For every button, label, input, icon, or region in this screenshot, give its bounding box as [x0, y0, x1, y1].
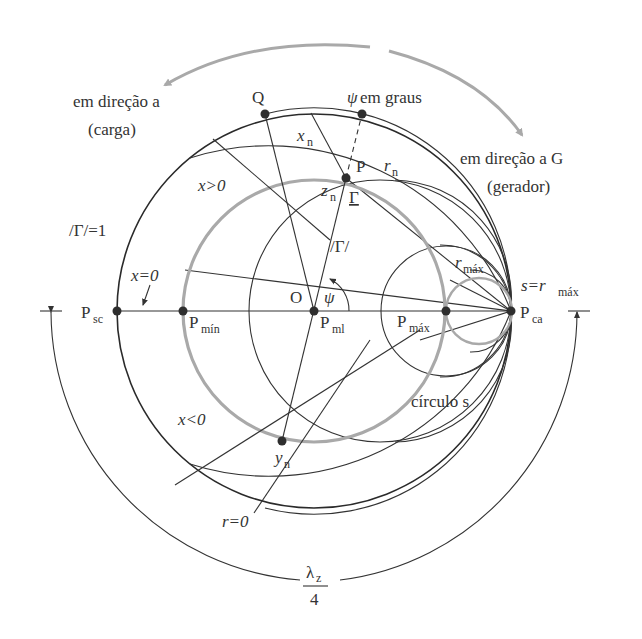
- label-Pmax-sub: máx: [409, 321, 430, 335]
- label-xn: x: [296, 126, 305, 145]
- label-psi-deg-sym: ψ: [347, 88, 358, 107]
- point-Q: [261, 110, 270, 119]
- label-rmax-sub: máx: [463, 262, 484, 276]
- toward-generator-label-2: (gerador): [487, 177, 550, 196]
- point-Pmax: [442, 307, 451, 316]
- label-Pmin: P: [189, 313, 198, 332]
- label-x-negative: x<0: [177, 410, 206, 429]
- label-Psc-sub: sc: [93, 312, 103, 326]
- label-psi: ψ: [324, 288, 335, 307]
- label-circle-s: círculo s: [411, 392, 469, 411]
- label-gamma-eq-1: /Γ/=1: [69, 221, 106, 240]
- label-x-positive: x>0: [197, 176, 226, 195]
- line-xpos: [213, 139, 330, 240]
- toward-generator-label-1: em direção a G: [460, 149, 563, 168]
- lambda-quarter-arc-left: [51, 312, 300, 580]
- toward-load-arrow: [165, 45, 370, 85]
- label-gamma-mag: /Γ/: [330, 237, 350, 256]
- label-rn-sub: n: [392, 165, 398, 179]
- label-zn-sub: n: [330, 190, 336, 204]
- label-yn-sub: n: [284, 457, 290, 471]
- label-s-eq-rmax: s=r: [521, 276, 546, 295]
- label-O: O: [290, 288, 302, 307]
- point-yn: [278, 437, 287, 446]
- label-lambda-sub: z: [316, 571, 321, 585]
- label-x-zero: x=0: [130, 266, 159, 285]
- line-lower-left: [175, 330, 420, 485]
- label-gamma: Γ: [349, 188, 359, 207]
- label-xn-sub: n: [307, 135, 313, 149]
- label-P: P: [356, 157, 365, 176]
- label-rn: r: [384, 156, 391, 175]
- label-Pml: P: [320, 313, 329, 332]
- label-s-eq-rmax-sub: máx: [558, 285, 579, 299]
- label-lambda-den: 4: [310, 590, 319, 609]
- label-r-zero: r=0: [222, 512, 249, 531]
- x0-pointer: [143, 285, 150, 305]
- point-Psc: [113, 307, 122, 316]
- point-Pml: [310, 307, 319, 316]
- point-Pca: [507, 307, 516, 316]
- label-Pca: P: [520, 303, 529, 322]
- point-Pmin: [179, 307, 188, 316]
- toward-load-label-1: em direção a: [73, 92, 160, 111]
- line-xn: [311, 113, 346, 178]
- smith-chart: em direção a (carga) em direção a G (ger…: [0, 0, 642, 639]
- label-yn: y: [273, 448, 283, 467]
- label-lambda: λ: [306, 563, 315, 582]
- label-Pmin-sub: mín: [201, 322, 220, 336]
- label-zn: z: [320, 181, 328, 200]
- label-Pmax: P: [397, 312, 406, 331]
- point-P: [342, 174, 351, 183]
- label-Psc: P: [81, 303, 90, 322]
- label-rmax: r: [455, 253, 462, 272]
- label-psi-deg-text: em graus: [360, 88, 422, 107]
- label-Pca-sub: ca: [532, 312, 543, 326]
- line-lower-mid: [254, 340, 370, 513]
- toward-load-label-2: (carga): [88, 120, 136, 139]
- label-Q: Q: [252, 88, 264, 107]
- label-Pml-sub: ml: [332, 322, 345, 336]
- point-psi: [358, 110, 367, 119]
